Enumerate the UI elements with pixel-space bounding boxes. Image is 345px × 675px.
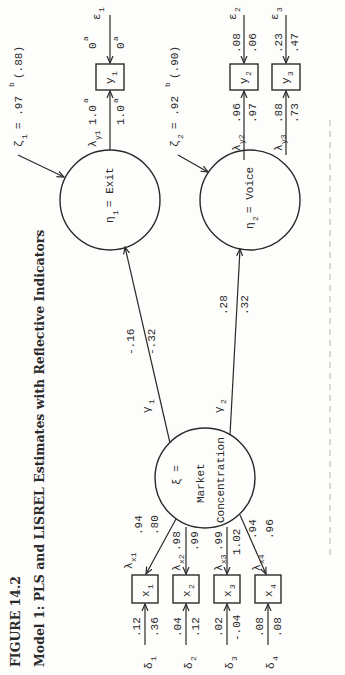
y1-loading-pls-sup: a (81, 98, 90, 103)
x1-loading-lisrel: .80 (149, 515, 161, 535)
delta1-symbol: δ (143, 662, 155, 669)
xi-name-line1: Market (195, 463, 207, 503)
epsilon3-sub: 3 (275, 7, 284, 12)
zeta1-lisrel: (.88) (13, 46, 25, 79)
y1-loading-lisrel-sup: a (111, 98, 120, 103)
gamma2-pls: .28 (218, 295, 230, 315)
indicator-x3: x 3 λ x3 .99 1.02 .02 -.04 δ 3 (213, 527, 243, 669)
gamma1-pls: -.16 (125, 329, 137, 355)
x2-box (173, 575, 199, 603)
eps1-pls-sup: a (81, 36, 90, 41)
gamma2-sub: 2 (219, 399, 228, 404)
eta1-sub: 1 (111, 210, 120, 215)
lambda-y3-sub: y3 (279, 134, 288, 144)
eps3-lisrel: .47 (289, 33, 301, 53)
epsilon1-symbol: ε (91, 13, 103, 20)
delta4-symbol: δ (265, 662, 277, 669)
indicator-y2: y 2 λ y2 .96 .97 .08 .06 ε 2 (227, 7, 259, 160)
zeta2-symbol: ζ (169, 140, 181, 147)
delta1-sub: 1 (149, 656, 158, 661)
eps1-lisrel: 0 (115, 42, 127, 49)
xi-name-line2: Concentration (215, 437, 227, 523)
delta3-pls: .02 (213, 617, 225, 637)
delta1-pls: .12 (131, 617, 143, 637)
x4-loading-lisrel: .96 (264, 519, 276, 539)
eps1-pls: 0 (87, 42, 99, 49)
eps1-lisrel-sup: a (111, 36, 120, 41)
lambda-y2-sub: y2 (237, 134, 246, 144)
figure-caption: Model 1: PLS and LISREL Estimates with R… (32, 230, 47, 667)
delta2-sub: 2 (189, 656, 198, 661)
x1-box (132, 575, 158, 603)
y2-name: y (238, 77, 250, 84)
lambda-x2-sub: x2 (177, 554, 186, 564)
lambda-x1-symbol: λ (123, 562, 135, 569)
lambda-y2-symbol: λ (231, 144, 243, 151)
x1-name: x (140, 590, 152, 597)
y3-sub: 3 (286, 71, 295, 76)
path-gamma2: γ 2 .28 .32 (213, 249, 251, 435)
gamma2-symbol: γ (213, 406, 225, 413)
y1-loading-pls: 1.0 (87, 105, 99, 125)
indicator-y1: y 1 λ y1 1.0 a 1.0 a 0 a 0 a ε 1 (81, 7, 127, 150)
y2-loading-pls: .96 (231, 103, 243, 123)
y2-sub: 2 (244, 71, 253, 76)
x2-name: x (181, 590, 193, 597)
y3-loading-lisrel: .73 (289, 103, 301, 123)
lambda-x4-sub: x4 (257, 554, 266, 564)
x1-sub: 1 (146, 584, 155, 589)
lambda-y1-symbol: λ (87, 140, 99, 147)
delta3-symbol: δ (224, 662, 236, 669)
lambda-x2-symbol: λ (171, 564, 183, 571)
zeta2-value: = .92 (169, 96, 181, 129)
lambda-y3-symbol: λ (273, 144, 285, 151)
delta4-pls: .08 (254, 617, 266, 637)
zeta2-lisrel: (.90) (169, 46, 181, 79)
gamma1-symbol: γ (141, 406, 153, 413)
x3-loading-pls: .99 (213, 531, 225, 551)
lambda-x3-symbol: λ (213, 564, 225, 571)
disturbance-zeta2: ζ 2 = .92 b (.90) (163, 46, 208, 172)
delta2-symbol: δ (183, 662, 195, 669)
eta2-sub: 2 (251, 216, 260, 221)
eps2-lisrel: .06 (247, 33, 259, 53)
figure-page: FIGURE 14.2 Model 1: PLS and LISREL Esti… (0, 0, 345, 675)
x3-sub: 3 (228, 584, 237, 589)
x2-loading-pls: .98 (171, 531, 183, 551)
gamma1-lisrel: -.32 (146, 329, 158, 355)
delta1-lisrel: .36 (149, 617, 161, 637)
x3-box (214, 575, 240, 603)
y2-loading-lisrel: .97 (247, 103, 259, 123)
zeta1-value: = .97 (13, 96, 25, 129)
delta2-pls: .04 (172, 617, 184, 637)
epsilon1-sub: 1 (97, 7, 106, 12)
lambda-x1-sub: x1 (129, 552, 138, 562)
delta3-lisrel: -.04 (231, 614, 243, 641)
indicator-x2: x 2 λ x2 .98 .99 .04 .12 δ 2 (171, 527, 202, 669)
eta2-symbol: η (244, 222, 256, 229)
zeta1-sub: 1 (20, 134, 29, 139)
figure-label: FIGURE 14.2 (8, 576, 23, 667)
eta2-name: = Voice (244, 167, 256, 213)
delta4-sub: 4 (271, 656, 280, 661)
x4-box (255, 575, 281, 603)
disturbance-zeta1: ζ 1 = .97 b (.88) (7, 46, 64, 177)
y1-loading-lisrel: 1.0 (115, 105, 127, 125)
lambda-x4-symbol: λ (251, 564, 263, 571)
epsilon3-symbol: ε (269, 13, 281, 20)
indicator-y3: y 3 λ y3 .88 .73 .23 .47 ε 3 (269, 7, 301, 155)
epsilon2-sub: 2 (233, 7, 242, 12)
zeta1-symbol: ζ (13, 140, 25, 147)
y1-name: y (104, 77, 116, 84)
eps2-pls: .08 (231, 33, 243, 53)
zeta2-sub: 2 (176, 134, 185, 139)
path-gamma1: γ 1 -.16 -.32 (125, 247, 170, 443)
eps3-pls: .23 (273, 33, 285, 53)
xi-symbol: ξ = (171, 465, 183, 485)
indicator-x4: x 4 λ x4 .94 .96 .08 .08 δ 4 (240, 515, 284, 669)
y3-loading-pls: .88 (273, 103, 285, 123)
eta1-symbol: η (104, 216, 116, 223)
x3-loading-lisrel: 1.02 (231, 529, 243, 555)
gamma1-sub: 1 (147, 399, 156, 404)
gamma2-lisrel: .32 (239, 295, 251, 315)
